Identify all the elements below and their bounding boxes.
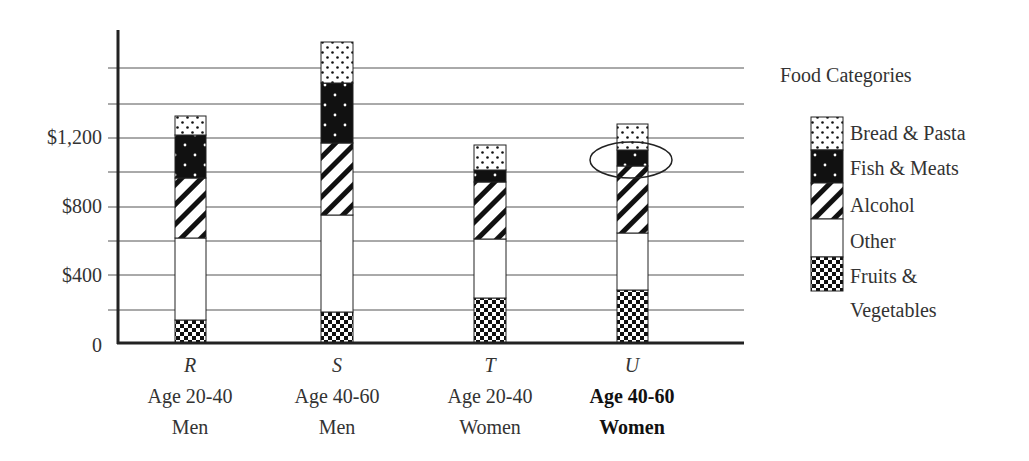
bar-T (474, 145, 506, 343)
bar-S-other (321, 215, 353, 312)
bar-T-bread (474, 145, 506, 170)
bar-T-alcohol (474, 182, 506, 239)
legend-label-other: Other (850, 226, 896, 257)
bar-R-other (175, 238, 206, 320)
x-label-S-age: Age 40-60 (267, 381, 407, 412)
legend-label-alcohol: Alcohol (850, 190, 914, 221)
legend-swatches (811, 117, 843, 291)
bar-S-alcohol (321, 143, 353, 215)
bar-R-fruits (175, 320, 206, 343)
legend-swatch-fish (811, 150, 843, 183)
bar-U-fruits (617, 290, 648, 343)
x-label-S: S Age 40-60 Men (267, 350, 407, 443)
legend-swatch-alcohol (811, 183, 843, 219)
x-label-S-letter: S (267, 350, 407, 381)
x-label-T-letter: T (420, 350, 560, 381)
y-label-0: 0 (22, 335, 102, 355)
bar-S-bread (321, 42, 353, 83)
bar-R-alcohol (175, 178, 206, 238)
bar-T-fish (474, 170, 506, 182)
bar-S (321, 42, 353, 343)
y-label-800: $800 (22, 196, 102, 216)
x-label-U-age: Age 40-60 (562, 381, 702, 412)
bar-S-fruits (321, 312, 353, 343)
y-label-400: $400 (22, 265, 102, 285)
x-label-T: T Age 20-40 Women (420, 350, 560, 443)
x-label-S-group: Men (267, 412, 407, 443)
x-label-R: R Age 20-40 Men (120, 350, 260, 443)
bar-R-bread (175, 116, 206, 135)
x-label-R-age: Age 20-40 (120, 381, 260, 412)
bar-U-other (617, 233, 648, 290)
x-label-R-group: Men (120, 412, 260, 443)
legend-label-bread: Bread & Pasta (850, 118, 966, 149)
legend-label-fish: Fish & Meats (850, 153, 959, 184)
x-label-R-letter: R (120, 350, 260, 381)
bar-U-bread (617, 124, 648, 150)
x-label-U: U Age 40-60 Women (562, 350, 702, 443)
y-label-1200: $1,200 (22, 127, 102, 147)
x-label-U-group: Women (562, 412, 702, 443)
bar-U-fish (617, 150, 648, 166)
x-label-U-letter: U (562, 350, 702, 381)
x-label-T-group: Women (420, 412, 560, 443)
legend-title: Food Categories (780, 64, 912, 87)
bar-R (175, 116, 206, 343)
legend-swatch-fruits (811, 257, 843, 291)
bar-T-other (474, 239, 506, 298)
legend-swatch-bread (811, 117, 843, 150)
legend-label-fruits-1: Fruits & (850, 261, 917, 292)
bar-T-fruits (474, 298, 506, 343)
bar-U-alcohol (617, 166, 648, 233)
bar-R-fish (175, 135, 206, 178)
x-label-T-age: Age 20-40 (420, 381, 560, 412)
bar-U (617, 124, 648, 343)
legend-label-fruits-2: Vegetables (850, 295, 937, 326)
legend-swatch-other (811, 219, 843, 257)
bar-S-fish (321, 83, 353, 143)
